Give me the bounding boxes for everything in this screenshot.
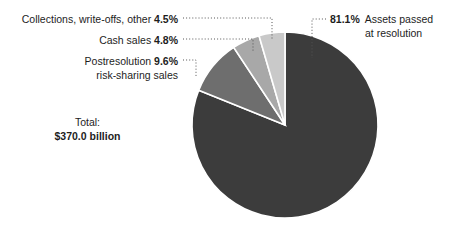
total-annotation: Total: $370.0 billion [30, 115, 145, 143]
callout-postresolution-line1: Postresolution [85, 55, 152, 67]
leader-line-postresolution [183, 60, 196, 78]
total-amount: $370.0 billion [55, 130, 121, 142]
callout-collections: Collections, write-offs, other 4.5% [22, 13, 178, 26]
callout-postresolution-line2: risk-sharing sales [96, 69, 178, 81]
callout-collections-text: Collections, write-offs, other [22, 13, 151, 25]
callout-assets-passed-line2: at resolution [365, 27, 422, 39]
callout-cash-sales-percent: 4.8% [154, 34, 178, 46]
total-caption: Total: [75, 116, 100, 128]
callout-assets-passed: 81.1%Assets passed at resolution [330, 13, 460, 40]
callout-cash-sales-text: Cash sales [99, 34, 151, 46]
callout-collections-percent: 4.5% [154, 13, 178, 25]
callout-postresolution: Postresolution 9.6% risk-sharing sales [0, 55, 178, 82]
callout-cash-sales: Cash sales 4.8% [99, 34, 178, 47]
callout-assets-passed-percent: 81.1% [330, 13, 360, 27]
callout-postresolution-percent: 9.6% [154, 55, 178, 67]
pie-chart-figure: Collections, write-offs, other 4.5% Cash… [0, 0, 476, 231]
callout-assets-passed-line1: Assets passed [365, 13, 433, 25]
